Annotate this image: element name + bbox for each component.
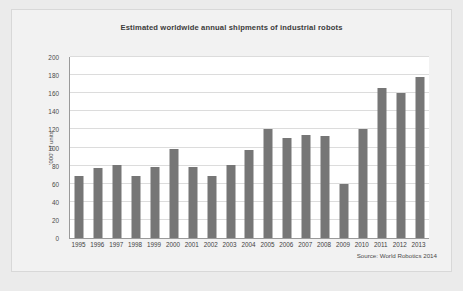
x-tick-label: 2012 [393, 241, 407, 248]
x-tick-label: 2000 [166, 241, 180, 248]
plot-area [69, 57, 429, 239]
x-tick-label: 2010 [355, 241, 369, 248]
bar-slot [297, 57, 316, 238]
x-tick-label: 2003 [223, 241, 237, 248]
x-tick-label: 2007 [298, 241, 312, 248]
x-tick-label: 1996 [90, 241, 104, 248]
x-tick-label: 2009 [336, 241, 350, 248]
y-tick-label: 60 [52, 180, 59, 187]
x-tick-label: 1997 [109, 241, 123, 248]
bar [94, 168, 103, 238]
x-tick-label: 1999 [147, 241, 161, 248]
bar-slot [127, 57, 146, 238]
bar [207, 176, 216, 238]
bar-slot [259, 57, 278, 238]
bar [283, 138, 292, 238]
bar-slot [316, 57, 335, 238]
bar-slot [278, 57, 297, 238]
source-note: Source: World Robotics 2014 [357, 252, 437, 259]
bar [151, 167, 160, 238]
bar [415, 77, 424, 238]
chart-card: Estimated worldwide annual shipments of … [11, 9, 452, 272]
y-tick-label: 120 [48, 126, 59, 133]
bar [396, 93, 405, 238]
bar-slot [202, 57, 221, 238]
y-tick-label: 180 [48, 72, 59, 79]
bar [377, 88, 386, 238]
bar-slot [70, 57, 89, 238]
x-tick-label: 2002 [204, 241, 218, 248]
bar [113, 165, 122, 238]
bar-slot [183, 57, 202, 238]
bar-slot [221, 57, 240, 238]
x-tick-label: 2005 [260, 241, 274, 248]
bar [226, 165, 235, 238]
y-tick-label: 20 [52, 216, 59, 223]
bar-slot [335, 57, 354, 238]
y-tick-label: 140 [48, 108, 59, 115]
x-tick-label: 2011 [374, 241, 388, 248]
bar [75, 176, 84, 238]
x-tick-label: 1998 [128, 241, 142, 248]
bar [188, 167, 197, 238]
x-tick-label: 2004 [241, 241, 255, 248]
bar-slot [391, 57, 410, 238]
y-tick-label: 80 [52, 162, 59, 169]
bar-slot [164, 57, 183, 238]
bar-slot [372, 57, 391, 238]
y-tick-label: 100 [48, 144, 59, 151]
bar [321, 136, 330, 238]
bar [302, 135, 311, 238]
bar [264, 129, 273, 238]
y-tick-label: 40 [52, 198, 59, 205]
x-tick-label: 2013 [412, 241, 426, 248]
bar-slot [89, 57, 108, 238]
bar [339, 184, 348, 238]
bar [132, 176, 141, 238]
bar-slot [146, 57, 165, 238]
bar-slot [410, 57, 429, 238]
y-tick-label: 200 [48, 54, 59, 61]
x-tick-label: 1995 [71, 241, 85, 248]
x-tick-label: 2001 [185, 241, 199, 248]
chart-title: Estimated worldwide annual shipments of … [12, 23, 451, 32]
bar-slot [240, 57, 259, 238]
x-tick-label: 2008 [317, 241, 331, 248]
bar [358, 129, 367, 239]
bar-series [70, 57, 429, 238]
y-tick-label: 160 [48, 90, 59, 97]
x-tick-label: 2006 [279, 241, 293, 248]
bar-slot [353, 57, 372, 238]
bar [169, 149, 178, 238]
bar [245, 150, 254, 238]
y-axis-tick-labels: 020406080100120140160180200 [12, 57, 65, 238]
y-tick-label: 0 [55, 235, 59, 242]
bar-slot [108, 57, 127, 238]
